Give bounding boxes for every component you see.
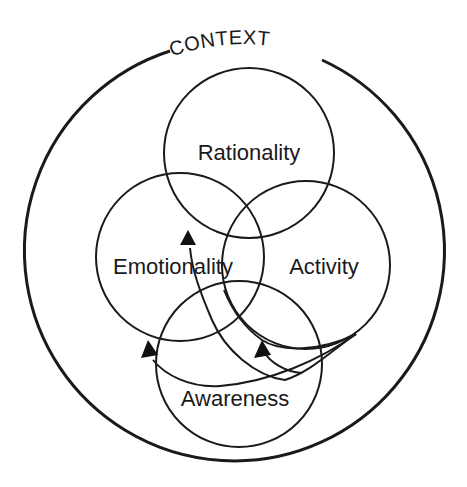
awareness-circle [156, 281, 322, 447]
arrow-upleft-icon [141, 340, 158, 358]
context-diagram: CONTEXT Rationality Emotionality Activit… [0, 0, 467, 487]
awareness-label: Awareness [181, 386, 289, 411]
emotionality-label: Emotionality [113, 254, 233, 279]
arrow-up-icon [180, 230, 196, 245]
context-label: CONTEXT [166, 26, 271, 60]
activity-label: Activity [289, 254, 359, 279]
rationality-label: Rationality [198, 140, 301, 165]
